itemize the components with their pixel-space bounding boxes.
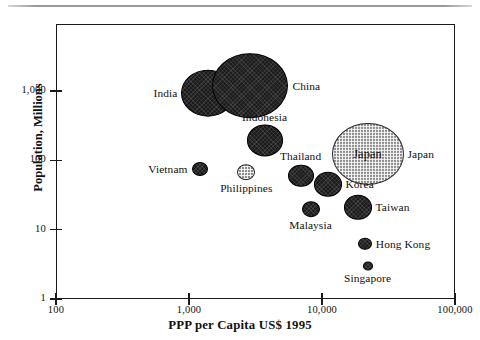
x-axis-tick-label: 100,000 [437,304,473,315]
point-label-taiwan: Taiwan [376,201,410,213]
bubble-vietnam[interactable] [192,162,208,176]
y-axis-tick [50,229,62,230]
point-label-thailand: Thailand [280,150,321,162]
bubble-thailand[interactable] [288,164,314,187]
bubble-indonesia[interactable] [247,125,283,156]
bubble-china[interactable] [212,53,288,119]
x-axis-tick-label: 100 [48,304,64,315]
y-axis-tick [50,90,62,91]
point-label-singapore: Singapore [344,272,391,284]
bubble-singapore[interactable] [363,261,373,270]
y-axis-tick-label: 1 [8,292,46,303]
top-divider-rule [8,5,472,7]
bubble-malaysia[interactable] [302,201,320,217]
x-axis-tick-label: 10,000 [307,304,337,315]
point-label-indonesia: Indonesia [242,111,287,123]
y-axis-tick [50,160,62,161]
x-axis-tick-label: 1,000 [177,304,202,315]
x-axis-title: PPP per Capita US$ 1995 [0,318,480,333]
point-label-vietnam: Vietnam [148,163,187,175]
bubble-inner-label-japan: Japan [353,146,382,161]
y-axis-title: Population, Millions [31,38,46,238]
point-label-japan: Japan [408,148,434,160]
point-label-korea: Korea [346,178,374,190]
bubble-chart-figure: 1,0001001011001,00010,000100,000 IndiaCh… [0,0,480,340]
point-label-malaysia: Malaysia [289,219,332,231]
bubble-philippines[interactable] [237,164,255,180]
point-label-philippines: Philippines [220,182,272,194]
point-label-hong-kong: Hong Kong [376,238,430,250]
point-label-india: India [154,87,178,99]
point-label-china: China [292,80,320,92]
